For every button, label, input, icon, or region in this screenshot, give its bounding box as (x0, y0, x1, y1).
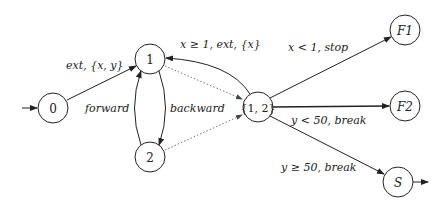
edge-12-F2 (273, 106, 389, 107)
svg-text:0: 0 (49, 102, 57, 116)
automaton-diagram: 0 1 2 {1, 2} F1 F2 S ext, {x, y} forward… (0, 0, 448, 213)
node-1-2: {1, 2} (241, 92, 276, 122)
node-0: 0 (38, 93, 68, 123)
label-x-ge-1: x ≥ 1, ext, {x} (180, 38, 261, 51)
node-S: S (383, 167, 413, 197)
svg-text:S: S (394, 176, 402, 190)
edge-1-2-backward (159, 71, 166, 145)
node-1: 1 (135, 44, 165, 74)
label-ext-xy: ext, {x, y} (66, 59, 124, 72)
label-backward: backward (170, 102, 225, 115)
svg-text:{1, 2}: {1, 2} (241, 102, 276, 115)
edge-12-1 (166, 58, 250, 94)
node-2: 2 (135, 142, 165, 172)
label-x-lt-1: x < 1, stop (288, 41, 348, 54)
svg-text:1: 1 (146, 53, 154, 67)
edge-2-12-dotted (165, 115, 242, 150)
label-forward: forward (84, 102, 129, 115)
edge-2-1-forward (135, 71, 142, 145)
node-F1: F1 (390, 15, 420, 45)
node-F2: F2 (390, 91, 420, 121)
edge-1-12-dotted (165, 66, 242, 99)
svg-text:F2: F2 (396, 100, 413, 114)
label-y-ge-50: y ≥ 50, break (280, 161, 357, 174)
label-y-lt-50: y < 50, break (290, 114, 367, 127)
svg-text:2: 2 (146, 151, 154, 165)
svg-text:F1: F1 (396, 24, 413, 38)
